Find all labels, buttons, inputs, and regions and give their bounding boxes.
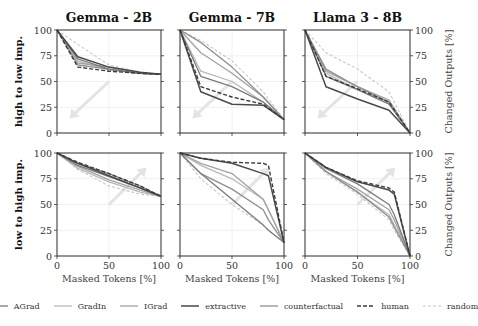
y-tick-label-right: 50: [415, 76, 427, 87]
panel-1-1: 050100Masked Tokens [%]: [177, 153, 293, 284]
legend-item-human: human: [357, 302, 409, 311]
figure: Gemma - 2BGemma - 7BLlama 3 - 8Bhigh to …: [0, 0, 468, 290]
column-title: Llama 3 - 8B: [313, 10, 402, 25]
y-tick-label: 100: [34, 25, 52, 36]
x-tick-label: 50: [226, 260, 238, 271]
row-label: low to high imp.: [13, 159, 24, 250]
legend-label: extractive: [205, 302, 246, 311]
y-tick-label-right: 75: [415, 173, 427, 184]
panel-0-0: 0255075100: [34, 25, 164, 139]
legend-label: random: [447, 302, 478, 311]
legend-swatch-icon: [181, 303, 199, 309]
legend-item-random: random: [423, 302, 478, 311]
row-label: high to low imp.: [13, 36, 24, 127]
x-axis-label: Masked Tokens [%]: [185, 273, 279, 284]
legend-swatch-icon: [260, 303, 278, 309]
right-axis-label: Changed Outputs [%]: [443, 29, 454, 133]
legend-swatch-icon: [357, 303, 375, 309]
legend-swatch-icon: [423, 303, 441, 309]
column-title: Gemma - 7B: [189, 10, 275, 25]
legend: AGradGradInIGradextractivecounterfactual…: [0, 296, 468, 316]
panel-0-2: 0255075100: [302, 25, 433, 139]
x-axis-label: Masked Tokens [%]: [62, 273, 156, 284]
y-tick-label-right: 50: [415, 199, 427, 210]
y-tick-label: 25: [40, 225, 52, 236]
legend-swatch-icon: [0, 303, 8, 309]
legend-label: IGrad: [144, 302, 167, 311]
x-tick-label: 100: [401, 260, 419, 271]
y-tick-label: 0: [46, 251, 52, 262]
legend-label: human: [381, 302, 409, 311]
legend-item-IGrad: IGrad: [120, 302, 167, 311]
legend-item-counterfactual: counterfactual: [260, 302, 343, 311]
y-tick-label: 75: [40, 50, 52, 61]
legend-swatch-icon: [54, 303, 72, 309]
y-tick-label-right: 0: [415, 128, 421, 139]
y-tick-label: 0: [46, 128, 52, 139]
legend-label: GradIn: [78, 302, 106, 311]
right-axis-label: Changed Outputs [%]: [443, 152, 454, 256]
y-tick-label-right: 25: [415, 102, 427, 113]
y-tick-label: 25: [40, 102, 52, 113]
x-tick-label: 50: [103, 260, 115, 271]
y-tick-label-right: 100: [415, 148, 433, 159]
x-tick-label: 50: [351, 260, 363, 271]
panel-1-0: 0255075100050100Masked Tokens [%]: [34, 148, 170, 285]
legend-label: counterfactual: [284, 302, 343, 311]
legend-item-GradIn: GradIn: [54, 302, 106, 311]
x-tick-label: 100: [275, 260, 293, 271]
y-tick-label: 50: [40, 199, 52, 210]
legend-label: AGrad: [14, 302, 40, 311]
x-tick-label: 0: [54, 260, 60, 271]
legend-swatch-icon: [120, 303, 138, 309]
y-tick-label-right: 25: [415, 225, 427, 236]
column-title: Gemma - 2B: [66, 10, 152, 25]
y-tick-label: 100: [34, 148, 52, 159]
y-tick-label-right: 100: [415, 25, 433, 36]
legend-item-AGrad: AGrad: [0, 302, 40, 311]
x-tick-label: 100: [152, 260, 170, 271]
x-tick-label: 0: [302, 260, 308, 271]
y-tick-label: 75: [40, 173, 52, 184]
x-tick-label: 0: [177, 260, 183, 271]
x-axis-label: Masked Tokens [%]: [311, 273, 405, 284]
y-tick-label: 50: [40, 76, 52, 87]
direction-arrow-icon: [73, 82, 109, 115]
panel-0-1: [177, 30, 287, 136]
y-tick-label-right: 75: [415, 50, 427, 61]
legend-item-extractive: extractive: [181, 302, 246, 311]
panel-1-2: 0255075100050100Masked Tokens [%]: [302, 148, 433, 285]
